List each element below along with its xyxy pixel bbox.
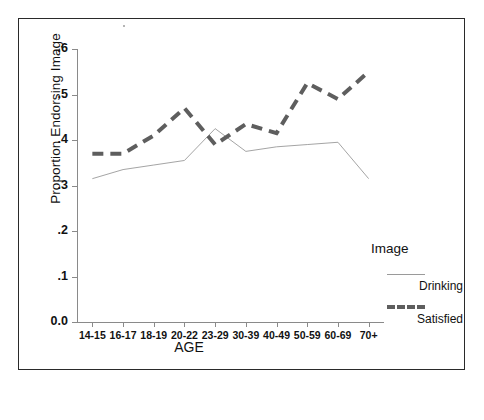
x-tick <box>338 322 339 327</box>
x-tick <box>123 322 124 327</box>
x-tick-label: 40-49 <box>263 329 290 341</box>
x-tick-label: 20-22 <box>171 329 198 341</box>
y-tick-label: .4 <box>58 132 68 146</box>
legend-item-satisfied[interactable]: Satisfied <box>371 303 463 326</box>
y-tick: 0.0 <box>72 322 77 323</box>
x-tick <box>215 322 216 327</box>
x-tick <box>307 322 308 327</box>
x-tick <box>369 322 370 327</box>
chart-figure: Proportion Endorsing Image AGE 0.0.1.2.3… <box>18 18 465 370</box>
legend: Image DrinkingSatisfied <box>371 241 463 336</box>
y-tick-label: .6 <box>58 41 68 55</box>
x-tick-label: 60-69 <box>325 329 352 341</box>
x-tick-label: 23-29 <box>202 329 229 341</box>
x-tick-label: 18-19 <box>140 329 167 341</box>
legend-label: Satisfied <box>371 312 463 326</box>
x-tick-label: 30-39 <box>232 329 259 341</box>
x-axis-title: AGE <box>19 339 359 355</box>
series-line-satisfied <box>92 72 368 154</box>
x-tick <box>92 322 93 327</box>
x-tick <box>184 322 185 327</box>
x-tick <box>154 322 155 327</box>
y-tick-label: .1 <box>58 269 68 283</box>
legend-swatch-satisfied-icon <box>387 303 425 311</box>
x-tick-label: 14-15 <box>79 329 106 341</box>
y-tick-label: 0.0 <box>51 314 68 328</box>
y-tick-label: .5 <box>58 87 68 101</box>
legend-entries: DrinkingSatisfied <box>371 270 463 326</box>
legend-swatch-drinking-icon <box>387 270 425 278</box>
x-tick-label: 50-59 <box>294 329 321 341</box>
plot-area: 0.0.1.2.3.4.5.6 14-1516-1718-1920-2223-2… <box>77 49 384 322</box>
series-lines <box>77 49 384 322</box>
y-tick-label: .2 <box>58 223 68 237</box>
legend-title: Image <box>371 241 463 256</box>
x-tick-label: 16-17 <box>110 329 137 341</box>
scan-speck <box>123 25 125 27</box>
y-tick-label: .3 <box>58 178 68 192</box>
x-tick <box>246 322 247 327</box>
x-tick <box>277 322 278 327</box>
legend-label: Drinking <box>371 279 463 293</box>
legend-item-drinking[interactable]: Drinking <box>371 270 463 293</box>
